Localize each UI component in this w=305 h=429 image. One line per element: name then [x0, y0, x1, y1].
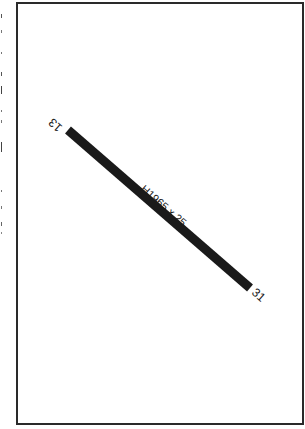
runway-end-31-label: 31 [249, 285, 269, 305]
runway-diagram: H1965 x 25 13 31 [0, 0, 305, 429]
runway-dimensions-label: H1965 x 25 [139, 182, 189, 228]
runway-end-13-label: 13 [46, 115, 66, 135]
